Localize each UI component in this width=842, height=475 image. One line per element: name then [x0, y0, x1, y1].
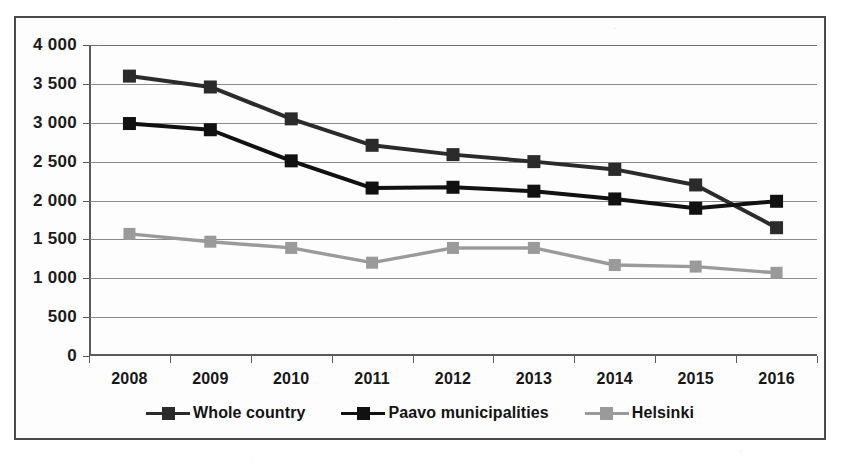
x-axis-tick-label: 2012 [435, 370, 471, 388]
x-axis-tick [251, 356, 252, 363]
y-axis-tick-label: 1 500 [33, 229, 77, 249]
y-axis-tick-label: 4 000 [33, 35, 77, 55]
series-layer [89, 45, 817, 356]
x-axis-tick-label: 2014 [597, 370, 633, 388]
legend-item[interactable]: Whole country [146, 404, 305, 422]
data-point-marker [608, 192, 621, 205]
x-axis-tick [817, 356, 818, 363]
data-point-marker [447, 148, 460, 161]
legend-item[interactable]: Paavo municipalities [341, 404, 548, 422]
x-axis-tick [493, 356, 494, 363]
data-point-marker [204, 80, 217, 93]
legend-marker-icon [162, 407, 175, 420]
y-axis-tick-label: 2 000 [33, 191, 77, 211]
x-axis-tick [89, 356, 90, 363]
data-point-marker [528, 242, 540, 254]
chart-legend: Whole countryPaavo municipalitiesHelsink… [16, 404, 824, 422]
chart-figure: 05001 0001 5002 0002 5003 0003 5004 000 … [14, 16, 826, 440]
series-helsinki [123, 228, 782, 279]
x-axis-tick-label: 2009 [192, 370, 228, 388]
series-paavo-municipalities [123, 117, 783, 215]
data-point-marker [608, 163, 621, 176]
x-axis-tick-label: 2015 [677, 370, 713, 388]
legend-swatch-icon [585, 406, 629, 420]
legend-label: Whole country [193, 404, 305, 422]
legend-swatch-icon [341, 406, 385, 420]
x-axis-tick-label: 2016 [758, 370, 794, 388]
legend-item[interactable]: Helsinki [585, 404, 694, 422]
series-whole-country [123, 70, 783, 235]
y-axis-tick-label: 3 500 [33, 74, 77, 94]
data-point-marker [285, 112, 298, 125]
data-point-marker [690, 261, 702, 273]
legend-swatch-icon [146, 406, 190, 420]
data-point-marker [204, 236, 216, 248]
data-point-marker [770, 195, 783, 208]
y-axis-tick-label: 3 000 [33, 113, 77, 133]
x-axis-tick-label: 2011 [354, 370, 390, 388]
data-point-marker [447, 242, 459, 254]
legend-label: Paavo municipalities [388, 404, 548, 422]
x-axis-tick [332, 356, 333, 363]
data-point-marker [689, 178, 702, 191]
data-point-marker [285, 154, 298, 167]
y-axis-tick-label: 2 500 [33, 152, 77, 172]
series-line [129, 124, 776, 209]
y-axis-tick-label: 0 [67, 346, 77, 366]
x-axis-tick-label: 2013 [516, 370, 552, 388]
x-axis-tick [413, 356, 414, 363]
data-point-marker [123, 70, 136, 83]
x-axis-tick [574, 356, 575, 363]
data-point-marker [366, 182, 379, 195]
data-point-marker [447, 181, 460, 194]
data-point-marker [770, 221, 783, 234]
data-point-marker [366, 257, 378, 269]
legend-marker-icon [600, 407, 613, 420]
data-point-marker [689, 202, 702, 215]
y-axis-tick-label: 1 000 [33, 268, 77, 288]
x-axis-tick [736, 356, 737, 363]
x-axis-tick [655, 356, 656, 363]
data-point-marker [771, 267, 783, 279]
data-point-marker [527, 185, 540, 198]
x-axis-tick [170, 356, 171, 363]
data-point-marker [285, 242, 297, 254]
x-axis-tick-label: 2010 [273, 370, 309, 388]
data-point-marker [609, 259, 621, 271]
legend-marker-icon [357, 407, 370, 420]
data-point-marker [527, 155, 540, 168]
data-point-marker [123, 228, 135, 240]
data-point-marker [204, 123, 217, 136]
data-point-marker [123, 117, 136, 130]
data-point-marker [366, 139, 379, 152]
x-axis-tick-label: 2008 [111, 370, 147, 388]
plot-area: 05001 0001 5002 0002 5003 0003 5004 000 … [89, 45, 817, 356]
y-axis-tick-label: 500 [48, 307, 77, 327]
legend-label: Helsinki [632, 404, 694, 422]
